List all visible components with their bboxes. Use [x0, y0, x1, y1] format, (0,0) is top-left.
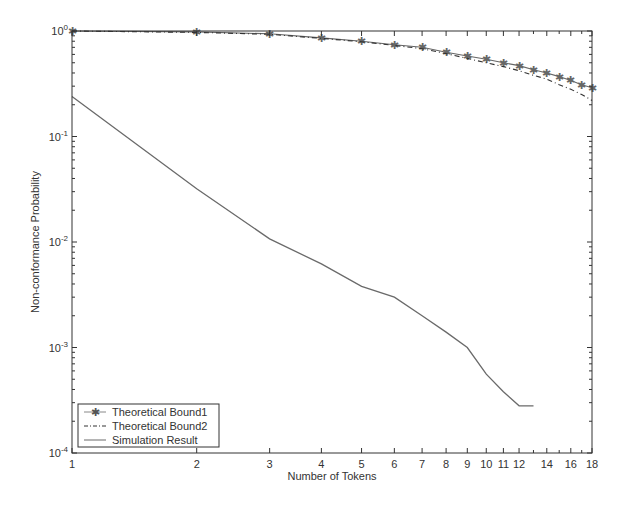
y-axis-ticks: 10-410-310-210-1100 [49, 23, 592, 459]
x-tick-label: 10 [480, 458, 492, 470]
x-tick-label: 4 [318, 458, 324, 470]
y-axis-label: Non-conformance Probability [29, 171, 41, 313]
legend-label-simulation: Simulation Result [112, 434, 198, 446]
y-tick-label: 10-1 [49, 129, 69, 143]
star-marker-icon: ✱ [482, 53, 491, 65]
x-tick-label: 18 [586, 458, 598, 470]
axes-frame [72, 31, 592, 453]
star-marker-icon: ✱ [91, 406, 100, 418]
x-tick-label: 5 [358, 458, 364, 470]
star-marker-icon: ✱ [357, 35, 366, 47]
x-axis-label: Number of Tokens [287, 470, 377, 482]
legend-label-bound1: Theoretical Bound1 [112, 406, 207, 418]
star-marker-icon: ✱ [463, 50, 472, 62]
x-tick-label: 16 [565, 458, 577, 470]
chart: ✱✱✱✱✱✱✱✱✱✱✱✱✱✱✱✱✱✱ 123456789101112141618… [0, 0, 624, 507]
star-marker-icon: ✱ [566, 74, 575, 86]
x-tick-label: 9 [464, 458, 470, 470]
legend: ✱ Theoretical Bound1 Theoretical Bound2 … [78, 404, 219, 447]
star-marker-icon: ✱ [529, 64, 538, 76]
x-tick-label: 2 [194, 458, 200, 470]
star-marker-icon: ✱ [542, 67, 551, 79]
x-tick-label: 11 [498, 458, 509, 470]
y-tick-label: 10-4 [49, 445, 69, 459]
x-tick-label: 3 [267, 458, 273, 470]
star-marker-icon: ✱ [418, 41, 427, 53]
series-layer: ✱✱✱✱✱✱✱✱✱✱✱✱✱✱✱✱✱✱ [68, 25, 597, 406]
x-tick-label: 14 [541, 458, 553, 470]
axes-box [72, 31, 592, 453]
x-tick-label: 12 [513, 458, 525, 470]
star-marker-icon: ✱ [390, 39, 399, 51]
x-tick-label: 7 [419, 458, 425, 470]
y-tick-label: 10-3 [49, 340, 69, 354]
y-tick-label: 100 [51, 23, 68, 37]
legend-label-bound2: Theoretical Bound2 [112, 420, 207, 432]
star-marker-icon: ✱ [577, 79, 586, 91]
x-tick-label: 1 [69, 458, 75, 470]
series-simulation [72, 96, 534, 405]
y-tick-label: 10-2 [49, 234, 69, 248]
x-tick-label: 6 [391, 458, 397, 470]
x-tick-label: 8 [443, 458, 449, 470]
star-marker-icon: ✱ [442, 46, 451, 58]
star-marker-icon: ✱ [555, 71, 564, 83]
